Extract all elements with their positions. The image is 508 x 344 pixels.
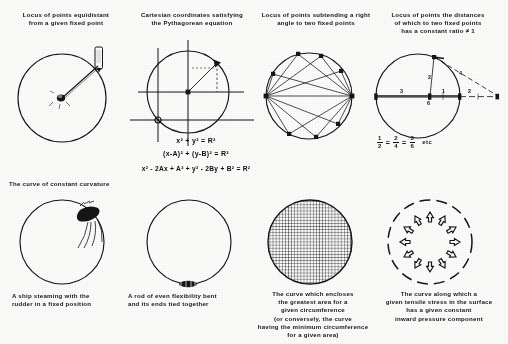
equation-line-3: x² - 2Ax + A² + y² - 2By + B² = R²	[118, 163, 274, 174]
panel-4-heading: Locus of points the distances of which t…	[374, 11, 502, 36]
apollonius-label-4: 4	[459, 70, 462, 76]
panel-3-figure	[253, 44, 373, 154]
apollonius-label-2a: 2	[428, 74, 431, 80]
panel-5-figure	[10, 192, 130, 297]
ratio-etc: etc	[422, 139, 432, 145]
panel-5-caption: A ship steaming with the rudder in a fix…	[12, 292, 122, 308]
panel-3-heading: Locus of points subtending a right angle…	[258, 11, 374, 27]
panel-6-caption: A rod of even flexibility bent and its e…	[128, 292, 250, 308]
apollonius-label-6: 6	[427, 100, 430, 106]
panel-8-figure	[372, 192, 492, 297]
fraction-1: 1 2	[377, 135, 383, 149]
panel-8-caption: The curve along which a given tensile st…	[370, 290, 508, 323]
fraction-3: 3 6	[410, 135, 416, 149]
apollonius-label-2b: 2	[468, 88, 471, 94]
fraction-2: 2 4	[393, 135, 399, 149]
panel-1-figure	[8, 44, 128, 154]
panel-1-heading: Locus of points equidistant from a given…	[10, 11, 122, 27]
panel-6-figure	[133, 192, 253, 297]
panel-5-heading: The curve of constant curvature	[9, 180, 159, 188]
ratio-separator-2: =	[402, 139, 407, 146]
ratio-separator-1: =	[386, 139, 391, 146]
equation-line-2: (x-A)² + (y-B)² = R²	[128, 148, 264, 159]
apollonius-label-3: 3	[400, 88, 403, 94]
panel-2-heading: Cartesian coordinates satisfying the Pyt…	[131, 11, 253, 27]
figure-page: Locus of points equidistant from a given…	[0, 0, 508, 344]
apollonius-label-1: 1	[442, 88, 445, 94]
equation-line-1: x² + y² = R²	[128, 135, 264, 146]
panel-7-figure	[254, 192, 374, 297]
panel-7-caption: The curve which encloses the greatest ar…	[249, 290, 377, 339]
ratio-equation: 1 2 = 2 4 = 3 6 etc	[377, 135, 432, 149]
